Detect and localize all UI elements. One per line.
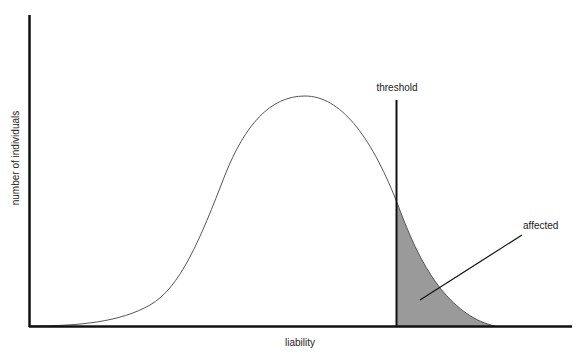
affected-leader-line: [420, 235, 522, 300]
diagram-canvas: number of individuals liability threshol…: [0, 0, 582, 360]
y-axis-label: number of individuals: [10, 111, 21, 206]
affected-area: [396, 200, 495, 326]
x-axis-label: liability: [285, 337, 315, 348]
liability-threshold-diagram: number of individuals liability threshol…: [0, 0, 582, 360]
threshold-label: threshold: [376, 82, 417, 93]
affected-label: affected: [523, 220, 558, 231]
